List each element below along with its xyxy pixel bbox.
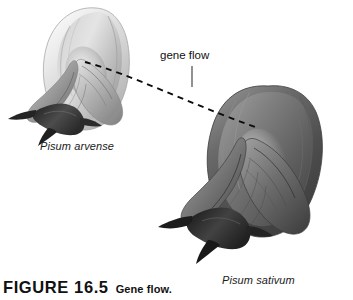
gene-flow-illustration [0,0,353,272]
species-label-arvense: Pisum arvense [40,140,114,152]
pea-flower-icon-sativum [158,86,322,264]
figure-title: Gene flow. [116,283,172,295]
species-label-sativum: Pisum sativum [222,274,295,286]
figure-caption: FIGURE 16.5 Gene flow. [3,278,172,297]
figure-illustration-area: gene flow Pisum arvense Pisum sativum [0,0,353,272]
figure-number: FIGURE 16.5 [3,278,109,297]
figure-page: gene flow Pisum arvense Pisum sativum FI… [0,0,353,300]
pea-flower-icon-arvense [8,8,129,146]
gene-flow-label: gene flow [160,49,209,61]
